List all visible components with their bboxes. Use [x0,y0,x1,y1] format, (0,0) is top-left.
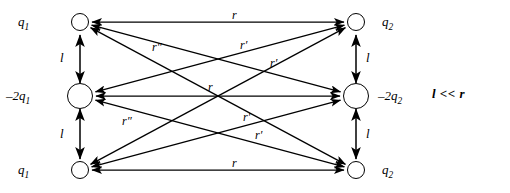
charge-node-left-bottom [71,161,89,179]
distance-label-middle-top: r′ [240,38,247,53]
charge-label-right-bottom: q2 [382,162,393,180]
distance-label-bottom-top: r″ [122,114,132,129]
distance-label-bottom-bottom: r [232,156,237,171]
charge-symbol: –2q [6,88,26,103]
charge-subscript: 1 [26,96,31,106]
charge-subscript: 1 [25,170,30,180]
distance-arrow-middle-top [95,25,344,92]
charge-symbol: –2q [378,88,398,103]
gap-label-right-gap-lower: l [366,126,370,142]
distance-arrow-top-middle [92,25,341,92]
charge-label-right-top: q2 [382,14,393,32]
charge-label-left-top: q1 [18,14,29,32]
distance-arrow-bottom-middle [92,100,341,167]
charge-node-right-bottom [347,161,365,179]
distance-arrow-middle-bottom [95,100,344,167]
distance-label-bottom-middle: r′ [243,110,250,125]
connection-line-group [91,22,346,170]
charge-node-left-top [71,13,89,31]
gap-label-left-gap-upper: l [60,50,64,66]
charge-node-right-middle [343,83,369,109]
charge-interaction-diagram: q1 –2q1 q1 q2 –2q2 q2 l << r llll rrrr′r… [0,0,510,193]
gap-label-left-gap-lower: l [60,126,64,142]
charge-subscript: 2 [389,22,394,32]
charge-node-left-middle [67,83,93,109]
distance-label-middle-middle: r [208,80,213,95]
charge-label-left-middle: –2q1 [6,88,30,106]
gap-label-right-gap-upper: l [366,50,370,66]
charge-label-right-middle: –2q2 [378,88,402,106]
condition-note: l << r [432,86,465,102]
charge-node-right-top [347,13,365,31]
charge-subscript: 2 [398,96,403,106]
charge-label-left-bottom: q1 [18,162,29,180]
gap-line-group [80,35,356,159]
charge-subscript: 2 [389,170,394,180]
charge-subscript: 1 [25,22,30,32]
distance-label-top-middle: r′ [270,56,277,71]
distance-label-top-bottom: r″ [152,40,162,55]
distance-label-top-top: r [232,8,237,23]
distance-label-middle-bottom: r′ [255,128,262,143]
